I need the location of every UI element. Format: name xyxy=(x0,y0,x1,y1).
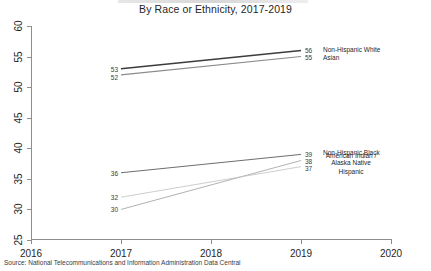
value-label-nhb-start: 36 xyxy=(111,169,118,176)
x-tick-label: 2017 xyxy=(110,248,132,259)
x-tick-label: 2018 xyxy=(200,248,222,259)
x-tick-label: 2020 xyxy=(380,248,402,259)
chart-page: By Race or Ethnicity, 2017-2019 25303540… xyxy=(0,0,431,271)
y-tick-label: 45 xyxy=(13,112,24,123)
value-label-aian-start: 30 xyxy=(111,206,118,213)
y-tick-label: 25 xyxy=(13,234,24,245)
value-label-hisp-start: 32 xyxy=(111,194,118,201)
series-line xyxy=(121,154,301,172)
value-label-asian-start: 52 xyxy=(111,73,118,80)
value-label-aian-end: 38 xyxy=(305,157,312,164)
x-tick xyxy=(391,239,392,244)
value-label-nhw-start: 53 xyxy=(111,65,118,72)
value-label-asian-end: 55 xyxy=(305,53,312,60)
series-name-american-indian-alaska-native: American Indian /Alaska Native xyxy=(326,152,377,167)
source-note: Source: National Telecommunications and … xyxy=(4,259,241,266)
y-tick-label: 55 xyxy=(13,51,24,62)
series-line xyxy=(121,167,301,198)
y-tick-label: 60 xyxy=(13,20,24,31)
series-line xyxy=(121,161,301,210)
y-tick-label: 30 xyxy=(13,204,24,215)
y-tick-label: 50 xyxy=(13,82,24,93)
value-label-hisp-end: 37 xyxy=(305,164,312,171)
x-tick-label: 2016 xyxy=(20,248,42,259)
x-tick-label: 2019 xyxy=(290,248,312,259)
series-name-hispanic: Hispanic xyxy=(339,168,364,176)
chart-title: By Race or Ethnicity, 2017-2019 xyxy=(0,3,431,15)
series-name-asian: Asian xyxy=(323,54,339,62)
y-tick-label: 35 xyxy=(13,173,24,184)
y-tick-label: 40 xyxy=(13,143,24,154)
plot-area: 2530354045505560 20162017201820192020 53… xyxy=(31,26,391,240)
